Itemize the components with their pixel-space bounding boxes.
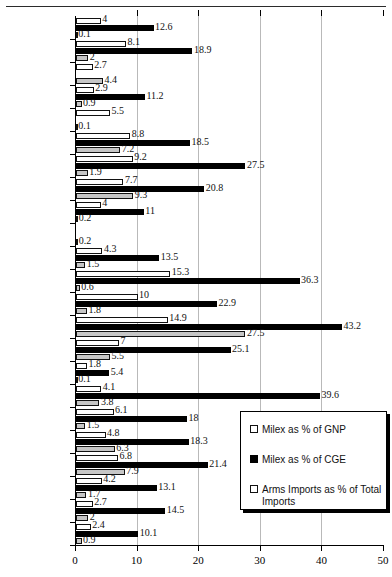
bar-arms: [76, 147, 120, 154]
bar-value-label: 1.8: [89, 359, 102, 369]
bar-value-label: 7.7: [125, 175, 138, 185]
bar-row: Qatar1022.91.8: [75, 292, 383, 315]
bar-gnp: [76, 133, 130, 140]
bar-row: World2.410.10.9: [75, 522, 383, 545]
bar-arms: [76, 262, 85, 269]
legend-swatch-arms-icon: [250, 485, 258, 493]
bar-value-label: 3.8: [101, 397, 114, 407]
bar-arms: [76, 285, 80, 292]
bar-value-label: 27.5: [247, 160, 265, 170]
bar-gnp: [76, 317, 168, 324]
bar-gnp: [76, 294, 138, 301]
bar-row: Oman15.336.30.6: [75, 269, 383, 292]
bar-arms: [76, 101, 82, 108]
y-tick: [70, 545, 75, 546]
bar-row: Syria725.15.5: [75, 338, 383, 361]
bar-value-label: 13.1: [158, 482, 176, 492]
bar-value-label: 9.3: [135, 190, 148, 200]
bar-value-label: 2.4: [92, 520, 105, 530]
bar-gnp: [76, 41, 126, 48]
bar-value-label: 39.6: [321, 390, 339, 400]
bar-arms: [76, 55, 88, 62]
x-tick-label: 0: [72, 554, 78, 566]
bar-arms: [76, 469, 125, 476]
bar-value-label: 15.3: [172, 267, 190, 277]
bar-value-label: 8.8: [132, 129, 145, 139]
bar-value-label: 0.1: [78, 374, 91, 384]
bar-cge: [76, 347, 231, 354]
bar-row: Lebanon4110.2: [75, 200, 383, 223]
bar-gnp: [76, 386, 101, 393]
bar-value-label: 21.4: [209, 459, 227, 469]
bar-gnp: [76, 340, 119, 347]
bar-value-label: 0.1: [78, 29, 91, 39]
bar-value-label: 0.9: [83, 98, 96, 108]
bar-value-label: 7.9: [126, 466, 139, 476]
bar-value-label: 6.8: [119, 451, 132, 461]
x-tick-label: 30: [254, 554, 265, 566]
bar-value-label: 18.3: [190, 436, 208, 446]
bar-value-label: 43.2: [344, 321, 362, 331]
bar-value-label: 1.9: [89, 167, 102, 177]
bar-row: Bahrain8.118.92: [75, 39, 383, 62]
bar-value-label: 14.9: [169, 313, 187, 323]
bar-value-label: 4.8: [107, 428, 120, 438]
bar-value-label: 10.1: [140, 528, 158, 538]
x-tick-top: [383, 10, 384, 16]
bar-value-label: 18.9: [194, 45, 212, 55]
x-tick-label: 50: [378, 554, 389, 566]
bar-gnp: [76, 478, 102, 485]
bar-value-label: 7.2: [122, 144, 135, 154]
bar-value-label: 13.5: [161, 252, 179, 262]
bar-row: Algeria412.60.1: [75, 16, 383, 39]
bar-value-label: 4.1: [103, 382, 116, 392]
bar-value-label: 7: [121, 336, 126, 346]
bar-value-label: 6.1: [115, 405, 128, 415]
x-tick: [321, 546, 322, 551]
bar-arms: [76, 423, 85, 430]
bar-arms: [76, 446, 115, 453]
bar-value-label: 1.8: [89, 305, 102, 315]
x-tick: [137, 546, 138, 551]
bar-value-label: 5.4: [111, 367, 124, 377]
legend-item-arms: Arms Imports as % of Total Imports: [250, 484, 384, 508]
bar-row: Morocco4.313.51.5: [75, 246, 383, 269]
bar-arms: [76, 492, 86, 499]
legend-label-cge: Milex as % of CGE: [262, 454, 346, 466]
bar-value-label: 2.7: [94, 60, 107, 70]
bar-arms: [76, 216, 78, 223]
bar-value-label: 36.3: [301, 275, 319, 285]
bar-gnp: [76, 110, 110, 117]
bar-gnp: [76, 248, 102, 255]
bar-gnp: [76, 87, 94, 94]
chart-legend: Milex as % of GNP Milex as % of CGE Arms…: [240, 411, 387, 510]
bar-value-label: 27.5: [247, 328, 265, 338]
bar-gnp: [76, 179, 123, 186]
x-tick-label: 20: [193, 554, 204, 566]
bar-row: Jordan9.227.51.9: [75, 154, 383, 177]
bar-value-label: 0.2: [79, 236, 92, 246]
bar-gnp: [76, 455, 118, 462]
bar-gnp: [76, 432, 106, 439]
bar-row: Libya0.2: [75, 223, 383, 246]
bar-gnp: [76, 271, 170, 278]
bar-arms: [76, 538, 82, 545]
x-tick: [260, 546, 261, 551]
bar-row: Tunisia1.85.40.1: [75, 361, 383, 384]
bar-value-label: 8.1: [127, 37, 140, 47]
bar-gnp: [76, 202, 101, 209]
bar-value-label: 5.5: [111, 351, 124, 361]
bar-row: Egypt2.74.4: [75, 62, 383, 85]
bar-value-label: 5.5: [111, 106, 124, 116]
bar-value-label: 20.8: [206, 183, 224, 193]
x-tick-label: 10: [131, 554, 142, 566]
legend-item-gnp: Milex as % of GNP: [250, 424, 346, 436]
bar-value-label: 0.1: [78, 121, 91, 131]
bar-arms: [76, 515, 88, 522]
top-rule: [6, 6, 386, 7]
bar-value-label: 10: [139, 290, 149, 300]
bar-value-label: 1.5: [87, 259, 100, 269]
x-axis-line: [75, 545, 384, 546]
bar-value-label: 0.6: [81, 282, 94, 292]
bar-value-label: 4: [102, 14, 107, 24]
